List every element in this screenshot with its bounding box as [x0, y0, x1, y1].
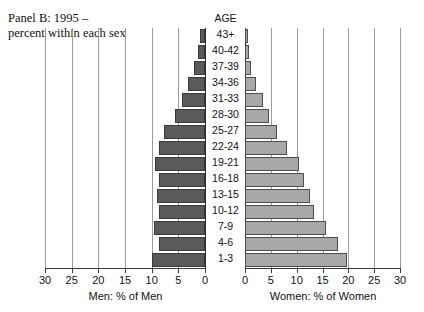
- men-gridline-20: [98, 28, 99, 268]
- age-label-22-24: 22-24: [206, 140, 245, 152]
- bar-women-16-18: [245, 173, 304, 187]
- bar-women-40-42: [245, 45, 249, 59]
- bar-men-19-21: [155, 157, 205, 171]
- bar-men-34-36: [188, 77, 205, 91]
- age-label-31-33: 31-33: [206, 92, 245, 104]
- women-tick-5: [271, 268, 272, 273]
- age-label-34-36: 34-36: [206, 76, 245, 88]
- bar-men-1-3: [152, 253, 205, 267]
- women-gridline-25: [374, 28, 375, 268]
- bar-men-43+: [200, 29, 205, 43]
- women-axis-caption: Women: % of Women: [245, 290, 401, 302]
- age-label-28-30: 28-30: [206, 108, 245, 120]
- bar-men-10-12: [159, 205, 205, 219]
- women-tick-15: [323, 268, 324, 273]
- women-plot-area: [245, 28, 400, 268]
- bar-men-16-18: [159, 173, 205, 187]
- men-tick-label-30: 30: [30, 274, 60, 286]
- age-label-25-27: 25-27: [206, 124, 245, 136]
- men-gridline-25: [72, 28, 73, 268]
- men-tick-label-10: 10: [137, 274, 167, 286]
- women-tick-30: [400, 268, 401, 273]
- bar-women-7-9: [245, 221, 326, 235]
- bar-women-22-24: [245, 141, 287, 155]
- men-tick-label-25: 25: [57, 274, 87, 286]
- men-tick-30: [45, 268, 46, 273]
- age-label-37-39: 37-39: [206, 60, 245, 72]
- bar-women-1-3: [245, 253, 347, 267]
- bar-men-4-6: [159, 237, 205, 251]
- men-tick-label-20: 20: [83, 274, 113, 286]
- men-gridline-10: [152, 28, 153, 268]
- men-tick-5: [178, 268, 179, 273]
- men-tick-10: [152, 268, 153, 273]
- women-tick-25: [374, 268, 375, 273]
- bar-men-28-30: [175, 109, 205, 123]
- men-gridline-15: [125, 28, 126, 268]
- women-tick-10: [297, 268, 298, 273]
- age-label-4-6: 4-6: [206, 236, 245, 248]
- men-tick-25: [72, 268, 73, 273]
- age-column-header: AGE: [206, 12, 245, 24]
- bar-women-37-39: [245, 61, 251, 75]
- bar-men-31-33: [182, 93, 205, 107]
- women-tick-0: [245, 268, 246, 273]
- age-label-1-3: 1-3: [206, 252, 245, 264]
- men-tick-20: [98, 268, 99, 273]
- women-tick-label-30: 30: [385, 274, 415, 286]
- age-label-7-9: 7-9: [206, 220, 245, 232]
- bar-women-28-30: [245, 109, 269, 123]
- women-tick-20: [348, 268, 349, 273]
- men-tick-label-5: 5: [163, 274, 193, 286]
- bar-women-10-12: [245, 205, 314, 219]
- age-label-10-12: 10-12: [206, 204, 245, 216]
- population-pyramid-chart: Panel B: 1995 – percent within each sex …: [0, 0, 424, 312]
- bar-women-34-36: [245, 77, 256, 91]
- bar-men-25-27: [164, 125, 205, 139]
- men-axis-caption: Men: % of Men: [45, 290, 206, 302]
- women-gridline-30: [400, 28, 401, 268]
- bar-women-31-33: [245, 93, 263, 107]
- men-tick-label-0: 0: [190, 274, 220, 286]
- men-tick-label-15: 15: [110, 274, 140, 286]
- bar-women-4-6: [245, 237, 338, 251]
- age-label-13-15: 13-15: [206, 188, 245, 200]
- men-gridline-30: [45, 28, 46, 268]
- age-label-40-42: 40-42: [206, 44, 245, 56]
- bar-men-7-9: [154, 221, 205, 235]
- age-label-column: AGE 43+40-4237-3934-3631-3328-3025-2722-…: [206, 12, 245, 270]
- bar-men-40-42: [198, 45, 205, 59]
- age-label-43+: 43+: [206, 28, 245, 40]
- bar-men-13-15: [157, 189, 205, 203]
- bar-women-19-21: [245, 157, 299, 171]
- bar-women-43+: [245, 29, 248, 43]
- women-gridline-20: [348, 28, 349, 268]
- bar-men-37-39: [194, 61, 205, 75]
- bar-men-22-24: [159, 141, 205, 155]
- bar-women-25-27: [245, 125, 277, 139]
- men-plot-area: [45, 28, 205, 268]
- age-label-19-21: 19-21: [206, 156, 245, 168]
- men-tick-15: [125, 268, 126, 273]
- bar-women-13-15: [245, 189, 310, 203]
- age-label-16-18: 16-18: [206, 172, 245, 184]
